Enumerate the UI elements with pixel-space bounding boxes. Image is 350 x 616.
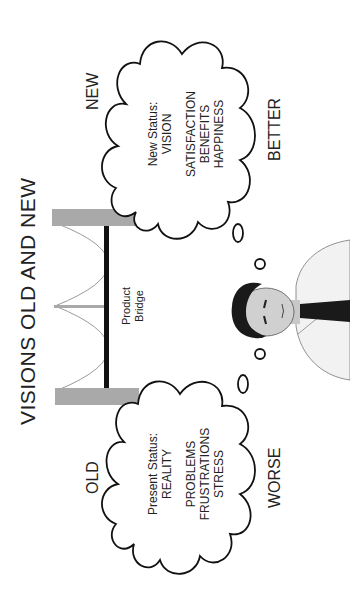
bridge-label-line1: Product [120, 278, 133, 334]
thought-bubble-new-large [233, 224, 243, 242]
new-item-benefits: BENEFITS [198, 64, 212, 204]
old-cloud-text: Present Status: REALITY PROBLEMS FRUSTRA… [146, 404, 226, 544]
bridge-label: Product Bridge [120, 278, 146, 334]
thought-bubble-old-small [255, 349, 265, 359]
new-item-happiness: HAPPINESS [212, 64, 226, 204]
bridge-label-line2: Bridge [133, 278, 146, 334]
bridge-cable-right [55, 224, 108, 306]
bridge-deck [104, 224, 109, 390]
old-outcome-worse: WORSE [266, 448, 284, 508]
diagram-title: VISIONS OLD AND NEW [16, 185, 40, 425]
new-heading: NEW [84, 73, 102, 110]
bridge-center-tower [54, 305, 106, 308]
thought-bubble-old-large [238, 375, 248, 393]
new-outcome-better: BETTER [266, 98, 284, 161]
businessman-illustration [232, 240, 350, 380]
old-status-label: Present Status: [146, 404, 160, 544]
new-status-value: VISION [160, 64, 174, 204]
bridge-pillar-left [55, 388, 139, 405]
old-status-value: REALITY [160, 404, 174, 544]
new-cloud-text: New Status: VISION SATISFACTION BENEFITS… [146, 64, 226, 204]
old-item-stress: STRESS [212, 404, 226, 544]
old-item-frustrations: FRUSTRATIONS [198, 404, 212, 544]
diagram-canvas: VISIONS OLD AND NEW OLD NEW WORSE BETTER… [0, 0, 350, 616]
new-status-label: New Status: [146, 64, 160, 204]
thought-bubble-new-small [255, 259, 265, 269]
old-item-problems: PROBLEMS [184, 404, 198, 544]
bridge-cable-left [55, 306, 108, 390]
new-item-satisfaction: SATISFACTION [184, 64, 198, 204]
old-heading: OLD [84, 461, 102, 494]
